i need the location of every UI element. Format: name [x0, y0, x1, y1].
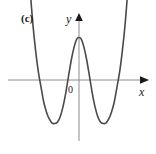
panel-label: (c) [21, 12, 34, 25]
graph-svg: (c) y x 0 [0, 0, 156, 154]
x-axis-label: x [138, 85, 145, 99]
origin-label: 0 [68, 84, 73, 95]
y-axis-label: y [65, 12, 72, 26]
figure-panel: (c) y x 0 [0, 0, 156, 154]
